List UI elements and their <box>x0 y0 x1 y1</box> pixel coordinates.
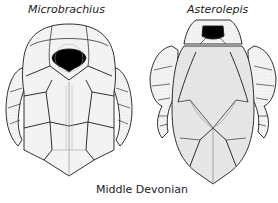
asterolepis-drawing <box>150 20 276 184</box>
fossil-illustration <box>0 0 278 203</box>
microbrachius-drawing <box>6 24 132 176</box>
figure-caption: Middle Devonian <box>96 183 188 196</box>
orbital-fenestra <box>202 26 224 39</box>
